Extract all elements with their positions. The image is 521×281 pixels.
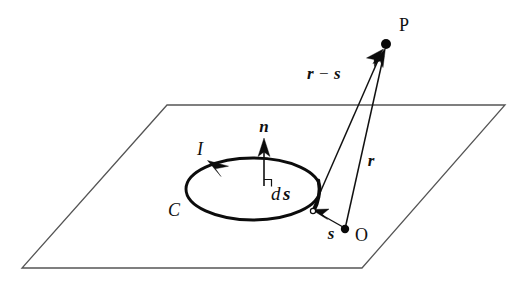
physics-diagram-canvas: P O I C n d s r s r − s <box>0 0 521 281</box>
ds-point-marker <box>310 208 315 213</box>
label-ds-s: s <box>282 183 290 204</box>
label-normal-n: n <box>259 117 268 136</box>
label-vector-r-minus-s: r − s <box>307 64 341 83</box>
ds-element-arc <box>314 181 320 212</box>
label-point-p: P <box>399 15 409 35</box>
label-line-element-ds: d s <box>271 183 290 204</box>
current-loop-path <box>186 158 320 220</box>
label-point-o: O <box>355 225 368 245</box>
label-vector-s: s <box>327 224 335 243</box>
point-o-marker <box>341 225 349 233</box>
label-current-i: I <box>196 139 204 159</box>
label-vector-r: r <box>368 151 375 170</box>
label-r-minus-s-operator: − <box>319 64 329 83</box>
point-p-marker <box>381 39 391 49</box>
vector-r-shaft <box>345 56 384 229</box>
label-r-minus-s-s: s <box>333 64 341 83</box>
label-ds-d: d <box>271 183 281 204</box>
label-r-minus-s-r: r <box>307 64 314 83</box>
label-contour-c: C <box>168 200 181 220</box>
figure-root: P O I C n d s r s r − s <box>0 0 521 281</box>
